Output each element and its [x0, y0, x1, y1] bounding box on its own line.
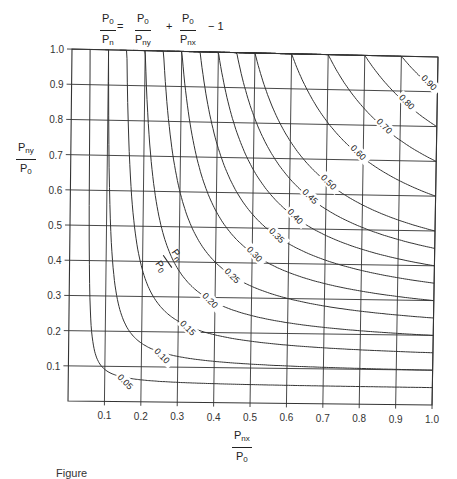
x-tick-label: 0.1	[97, 410, 111, 421]
grid-line-y	[65, 260, 435, 266]
y-tick-label: 0.1	[46, 361, 60, 372]
contour-line	[177, 51, 435, 265]
x-tick-label: 0.7	[316, 413, 330, 424]
grid-line-y	[66, 155, 436, 162]
y-tick-label: 0.8	[49, 114, 63, 125]
y-tick-label: 0.2	[47, 326, 61, 337]
y-tick-label: 0.6	[48, 185, 62, 196]
x-tick-label: 0.5	[243, 412, 257, 423]
contour-label: 0.40	[284, 205, 309, 230]
x-tick-label: 1.0	[425, 414, 439, 425]
grid-line-x	[286, 54, 291, 408]
plot-frame	[68, 49, 438, 405]
grid-line-y	[65, 190, 435, 196]
grid-line-y	[64, 295, 434, 300]
grid-line-x	[323, 55, 328, 408]
contour-label: 0.80	[396, 90, 421, 115]
grid-line-x	[177, 51, 182, 406]
y-tick-label: 0.5	[48, 220, 62, 231]
grid-line-y	[65, 225, 435, 231]
grid-line-y	[67, 84, 438, 92]
x-tick-label: 0.4	[207, 412, 221, 423]
contour-line	[89, 49, 432, 387]
contour-line	[245, 53, 437, 92]
x-tick-label: 0.8	[352, 413, 366, 424]
y-tick-label: 1.0	[50, 44, 64, 55]
contour-label: 0.25	[221, 264, 246, 289]
grid-line-x	[396, 56, 402, 408]
x-tick-label: 0.3	[170, 411, 184, 422]
grid-line-y	[64, 331, 433, 336]
figure-caption: Figure	[56, 467, 87, 479]
x-tick-label: 0.6	[279, 412, 293, 423]
contour-label: 0.20	[199, 289, 224, 314]
y-tick-label: 0.3	[47, 290, 61, 301]
contour-line	[133, 50, 433, 335]
grid-line-x	[432, 57, 438, 409]
x-tick-label: 0.2	[134, 411, 148, 422]
contour-label: 0.35	[266, 224, 291, 249]
grid-line-x	[141, 51, 145, 406]
chart-grid	[63, 49, 438, 409]
x-tick-label: 0.9	[389, 414, 403, 425]
y-tick-label: 0.9	[50, 79, 64, 90]
contour-label: 0.15	[177, 316, 202, 341]
contour-label: 0.10	[151, 344, 176, 369]
y-tick-label: 0.4	[48, 255, 62, 266]
contour-line	[167, 51, 434, 283]
y-tick-label: 0.7	[49, 150, 63, 161]
grid-line-y	[63, 366, 432, 370]
contour-label: 0.05	[114, 370, 139, 395]
grid-line-x	[214, 52, 219, 406]
grid-line-x	[104, 50, 108, 406]
contour-line	[157, 51, 434, 301]
